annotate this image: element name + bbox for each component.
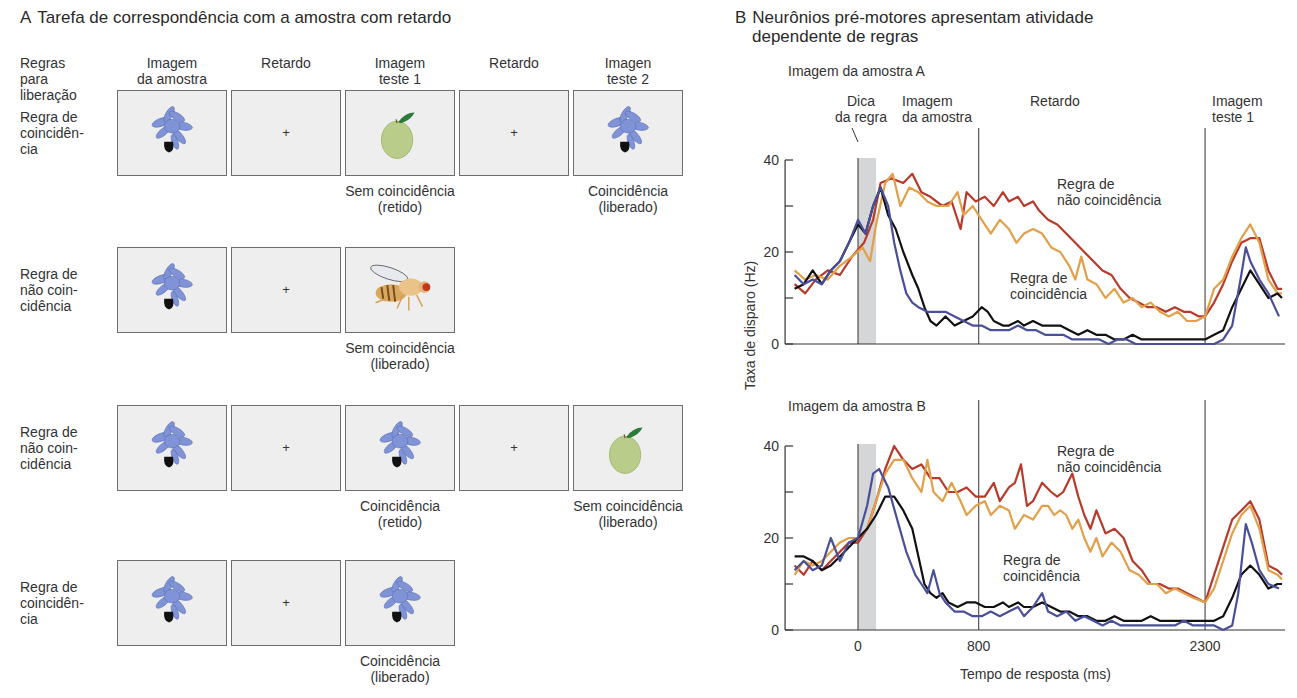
y-axis-label: Taxa de disparo (Hz) [742, 261, 758, 390]
annotation-match-rule-b: Regra de coincidência [1003, 552, 1080, 584]
y-tick-label: 40 [763, 152, 779, 168]
y-tick-label: 0 [771, 336, 779, 352]
y-tick-label: 20 [763, 244, 779, 260]
x-tick-label: 2300 [1189, 638, 1220, 654]
x-axis-label: Tempo de resposta (ms) [960, 666, 1111, 682]
annotation-match-rule-a: Regra de coincidência [1010, 270, 1087, 302]
x-tick-label: 0 [854, 638, 862, 654]
firing-rate-charts: 020400204008002300 [0, 0, 1297, 698]
chart-sample-b: 0204008002300 [763, 400, 1285, 654]
chart-sample-a: 02040 [763, 128, 1285, 352]
x-tick-label: 800 [967, 638, 991, 654]
annotation-nonmatch-rule-a: Regra de não coincidência [1057, 176, 1161, 208]
y-tick-label: 0 [771, 622, 779, 638]
y-tick-label: 40 [763, 438, 779, 454]
cue-pointer-line [852, 128, 858, 142]
rule-cue-shade [858, 158, 876, 344]
y-tick-label: 20 [763, 530, 779, 546]
annotation-nonmatch-rule-b: Regra de não coincidência [1057, 443, 1161, 475]
